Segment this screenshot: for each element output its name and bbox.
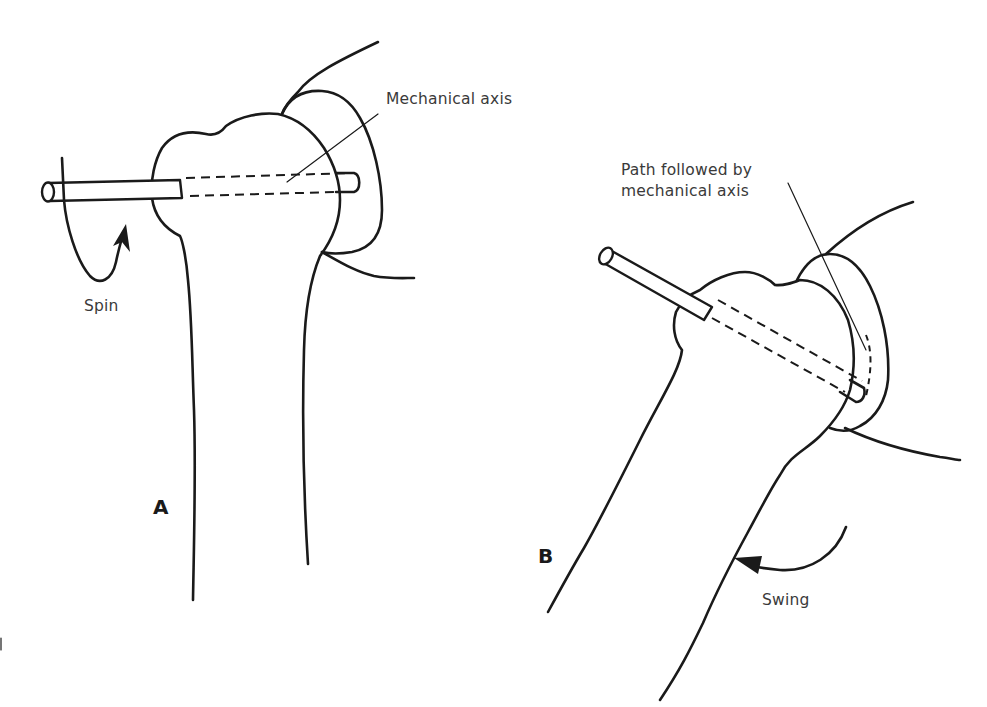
panel-b-letter: B <box>538 544 553 568</box>
axis-path-label-line2: mechanical axis <box>621 181 749 202</box>
rod-hidden-bottom-a <box>190 192 336 196</box>
humerus-outline-b-lateral <box>548 272 854 700</box>
axis-path-label-line1: Path followed by <box>621 160 752 181</box>
swing-curve <box>752 527 846 570</box>
rod-hidden-top-b <box>718 300 862 381</box>
glenoid-cavity-a <box>282 91 382 254</box>
scapula-upper-line-b <box>826 202 913 254</box>
scapula-upper-line-a <box>282 42 378 114</box>
spin-arrowhead-icon <box>113 224 130 252</box>
rod-hidden-bottom-b <box>712 318 845 392</box>
scapula-lower-line-a <box>322 252 414 278</box>
spin-label: Spin <box>84 296 119 317</box>
panel-a-letter: A <box>153 495 168 519</box>
swing-arrowhead-icon <box>734 556 762 574</box>
rod-hidden-top-a <box>186 173 352 178</box>
panel-b-drawing <box>548 183 960 700</box>
rod-end-a <box>42 183 54 202</box>
mechanical-axis-label: Mechanical axis <box>386 89 512 110</box>
swing-label: Swing <box>762 590 810 611</box>
scapula-lower-line-b <box>845 428 960 460</box>
axis-path-leader <box>788 183 866 350</box>
axis-path-arc <box>866 335 871 396</box>
panel-a-drawing <box>42 42 414 600</box>
rod-a <box>48 180 182 201</box>
spin-curve <box>62 158 122 281</box>
rod-b <box>602 250 712 320</box>
